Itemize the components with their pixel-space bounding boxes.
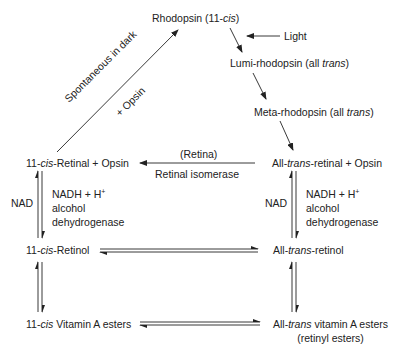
node-lumi-rhodopsin: Lumi-rhodopsin (all trans) bbox=[230, 57, 349, 69]
node-cis-vitamin-a-esters: 11-cis Vitamin A esters bbox=[26, 318, 131, 330]
enzyme-right-label: NADH + H+ alcohol dehydrogenase bbox=[306, 187, 378, 229]
node-trans-retinol: All-trans-retinol bbox=[273, 244, 344, 256]
node-trans-retinal-opsin: All-trans-retinal + Opsin bbox=[272, 157, 382, 169]
node-meta-rhodopsin: Meta-rhodopsin (all trans) bbox=[254, 106, 374, 118]
retina-label: (Retina) bbox=[180, 148, 217, 160]
node-cis-retinal-opsin: 11-cis-Retinal + Opsin bbox=[26, 157, 129, 169]
node-cis-retinol: 11-cis-Retinol bbox=[26, 244, 89, 256]
light-label: Light bbox=[284, 30, 307, 42]
nad-left-label: NAD bbox=[11, 197, 33, 209]
lumi-to-meta-arrow bbox=[253, 73, 266, 99]
node-trans-vitamin-a-esters: All-trans vitamin A esters (retinyl este… bbox=[273, 318, 388, 344]
enzyme-left-label: NADH + H+ alcohol dehydrogenase bbox=[52, 187, 124, 229]
rhodopsin-to-lumi-arrow bbox=[230, 28, 242, 52]
isomerase-label: Retinal isomerase bbox=[155, 168, 239, 180]
node-rhodopsin: Rhodopsin (11-cis) bbox=[152, 12, 239, 24]
meta-to-trans-retinal-arrow bbox=[280, 121, 293, 150]
nad-right-label: NAD bbox=[265, 197, 287, 209]
